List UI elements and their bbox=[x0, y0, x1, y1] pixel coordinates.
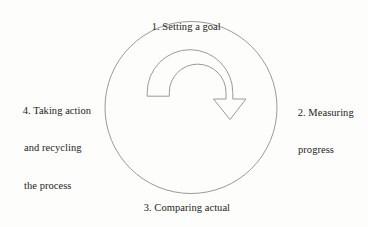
step-1-line-1: 1. Setting a goal bbox=[152, 21, 221, 32]
step-4-line-3: the process bbox=[12, 180, 91, 193]
step-4-line-2: and recycling bbox=[12, 142, 91, 155]
cycle-circle bbox=[105, 22, 277, 194]
step-label-3: 3. Comparing actual with planned bbox=[133, 189, 230, 227]
recycle-arrow-icon bbox=[147, 50, 246, 120]
step-2-line-1: 2. Measuring bbox=[298, 107, 354, 118]
step-label-4: 4. Taking action and recycling the proce… bbox=[12, 92, 91, 218]
step-3-line-1: 3. Comparing actual bbox=[144, 202, 230, 213]
step-2-line-2: progress bbox=[287, 144, 354, 157]
cycle-diagram: 1. Setting a goal 2. Measuring progress … bbox=[0, 0, 368, 227]
step-label-1: 1. Setting a goal bbox=[141, 8, 221, 46]
step-4-line-1: 4. Taking action bbox=[23, 105, 91, 116]
step-label-2: 2. Measuring progress bbox=[287, 94, 354, 182]
